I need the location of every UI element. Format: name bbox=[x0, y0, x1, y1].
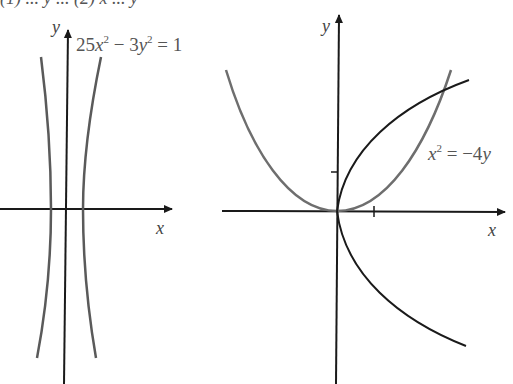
hyperbola-equation: 25x2 − 3y2 = 1 bbox=[76, 33, 182, 56]
left-y-axis bbox=[64, 30, 68, 384]
left-plot bbox=[0, 30, 172, 384]
hyperbola-right-branch bbox=[83, 57, 101, 358]
eq-op: − bbox=[109, 34, 129, 55]
eq-coef: 25 bbox=[76, 34, 95, 55]
eq-coef: 3 bbox=[129, 34, 139, 55]
eq-var: y bbox=[482, 143, 490, 164]
hyperbola-left-branch bbox=[37, 57, 51, 358]
figure-canvas bbox=[0, 0, 513, 384]
eq-rhs: = −4 bbox=[442, 143, 482, 164]
eq-var: y bbox=[139, 34, 147, 55]
parabola-sideways-lower bbox=[337, 211, 466, 346]
left-y-label: y bbox=[52, 17, 60, 38]
right-plot bbox=[222, 15, 505, 384]
parabola-equation: x2 = −4y bbox=[428, 142, 491, 165]
eq-rhs: = 1 bbox=[153, 34, 183, 55]
right-y-label: y bbox=[322, 16, 330, 37]
left-x-label: x bbox=[156, 218, 164, 239]
right-x-axis bbox=[222, 211, 505, 212]
right-x-label: x bbox=[488, 220, 496, 241]
